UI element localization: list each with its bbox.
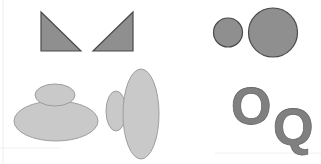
bottom-wide-ellipse <box>14 101 98 141</box>
top-small-ellipse <box>35 84 75 106</box>
letter-q: Q <box>273 98 313 156</box>
stacked-ellipses <box>14 84 98 141</box>
figure-canvas: O Q <box>0 0 321 164</box>
circle-pair <box>214 8 298 57</box>
right-tall-ellipse <box>123 69 159 159</box>
letter-o: O <box>231 77 271 135</box>
small-circle <box>214 18 243 47</box>
triangle-pair <box>41 12 133 51</box>
side-ellipses <box>106 69 159 159</box>
right-triangle-right <box>93 12 133 51</box>
large-circle <box>249 8 298 57</box>
right-triangle-left <box>41 12 81 51</box>
shapes-figure: O Q <box>0 0 321 164</box>
letter-pair: O Q <box>231 77 313 156</box>
